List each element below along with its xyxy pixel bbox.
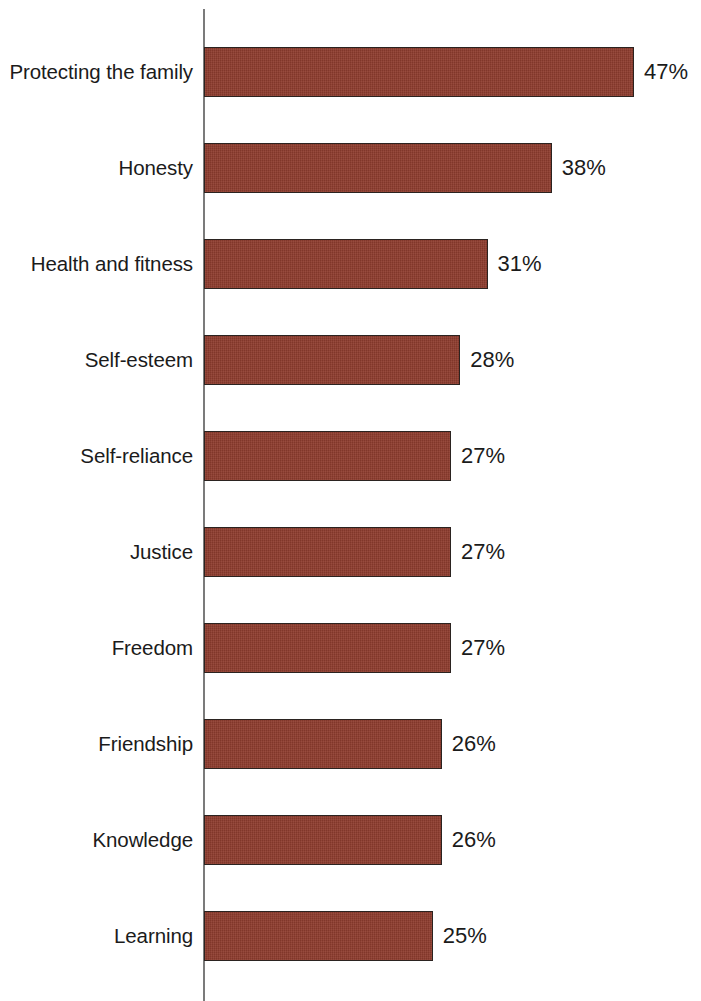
bar-rect[interactable] — [204, 47, 634, 97]
bar-category-label: Freedom — [0, 623, 193, 673]
bar-row: Health and fitness 31% — [0, 239, 701, 289]
bar-chart: Protecting the family 47% Honesty 38% He… — [0, 0, 701, 1001]
bar-value-label: 27% — [461, 527, 505, 577]
bar-rect[interactable] — [204, 239, 488, 289]
bar-category-label: Learning — [0, 911, 193, 961]
bar-row: Self-reliance 27% — [0, 431, 701, 481]
bar-category-label: Justice — [0, 527, 193, 577]
bar-row: Freedom 27% — [0, 623, 701, 673]
bar-row: Learning 25% — [0, 911, 701, 961]
bar-row: Knowledge 26% — [0, 815, 701, 865]
bar-rect[interactable] — [204, 527, 451, 577]
bar-category-label: Honesty — [0, 143, 193, 193]
bar-value-label: 27% — [461, 431, 505, 481]
bar-rect[interactable] — [204, 815, 442, 865]
bar-value-label: 25% — [443, 911, 487, 961]
bar-rect[interactable] — [204, 623, 451, 673]
bar-row: Self-esteem 28% — [0, 335, 701, 385]
bar-category-label: Protecting the family — [0, 47, 193, 97]
bar-category-label: Friendship — [0, 719, 193, 769]
bar-category-label: Health and fitness — [0, 239, 193, 289]
bar-value-label: 26% — [452, 719, 496, 769]
bar-value-label: 28% — [470, 335, 514, 385]
bar-rect[interactable] — [204, 431, 451, 481]
bar-rect[interactable] — [204, 911, 433, 961]
bar-category-label: Self-esteem — [0, 335, 193, 385]
bar-value-label: 26% — [452, 815, 496, 865]
bar-rect[interactable] — [204, 143, 552, 193]
bar-rect[interactable] — [204, 335, 460, 385]
bar-row: Friendship 26% — [0, 719, 701, 769]
bar-row: Honesty 38% — [0, 143, 701, 193]
bar-rect[interactable] — [204, 719, 442, 769]
bar-value-label: 31% — [498, 239, 542, 289]
bar-row: Protecting the family 47% — [0, 47, 701, 97]
bar-value-label: 47% — [644, 47, 688, 97]
bar-value-label: 27% — [461, 623, 505, 673]
bar-row: Justice 27% — [0, 527, 701, 577]
bar-category-label: Knowledge — [0, 815, 193, 865]
bar-value-label: 38% — [562, 143, 606, 193]
bar-category-label: Self-reliance — [0, 431, 193, 481]
